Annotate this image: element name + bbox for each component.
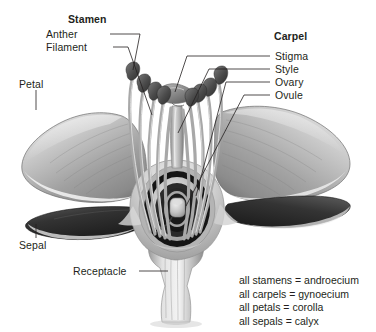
sepal-right [225,196,350,229]
label-anther: Anther [46,28,78,40]
flower-diagram-figure: Stamen Anther Filament Petal Sepal Recep… [0,0,376,332]
label-carpel: Carpel [274,30,307,42]
legend-line: all sepals = calyx [239,315,359,329]
label-stamen: Stamen [68,13,107,25]
petal-left [22,113,147,203]
label-petal: Petal [19,78,43,90]
label-receptacle: Receptacle [73,265,127,277]
petal-right [214,106,350,202]
style [171,106,184,168]
terminology-legend: all stamens = androecium all carpels = g… [239,274,359,328]
label-stigma: Stigma [275,50,308,62]
legend-line: all carpels = gynoecium [239,288,359,302]
legend-line: all stamens = androecium [239,274,359,288]
label-ovule: Ovule [275,89,303,101]
label-filament: Filament [46,41,87,53]
label-sepal: Sepal [19,239,46,251]
label-ovary: Ovary [275,76,304,88]
label-style: Style [275,63,299,75]
legend-line: all petals = corolla [239,301,359,315]
